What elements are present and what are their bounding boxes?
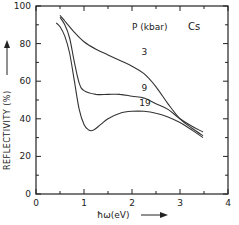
curve-label-3: 3 [142,47,148,57]
tick-labels: 01234020406080100 [14,1,231,208]
reflectivity-chart: 01234020406080100 P (kbar) Cs 3 9 19 ħω(… [0,0,239,225]
plot-frame [36,6,228,194]
y-tick-label: 80 [20,39,32,49]
x-tick-label: 2 [129,198,135,208]
y-tick-label: 100 [14,1,31,11]
data-curves [56,15,203,137]
curve-label-19: 19 [139,98,151,108]
y-tick-label: 0 [25,189,31,199]
x-tick-label: 0 [33,198,39,208]
x-tick-label: 3 [177,198,183,208]
x-tick-label: 4 [225,198,231,208]
y-tick-label: 60 [20,76,32,86]
y-tick-label: 40 [20,114,32,124]
curve-9-kbar [60,17,203,132]
x-tick-label: 1 [81,198,87,208]
x-axis-arrow-icon [141,212,168,218]
x-axis-label: ħω(eV) [97,210,130,220]
element-label: Cs [188,21,200,32]
legend-title: P (kbar) [132,22,167,32]
y-axis-label: REFLECTIVITY (%) [3,90,12,170]
curve-label-9: 9 [142,83,148,93]
y-tick-label: 20 [20,151,32,161]
y-axis-arrow-icon [4,40,10,75]
axis-ticks [36,6,228,194]
